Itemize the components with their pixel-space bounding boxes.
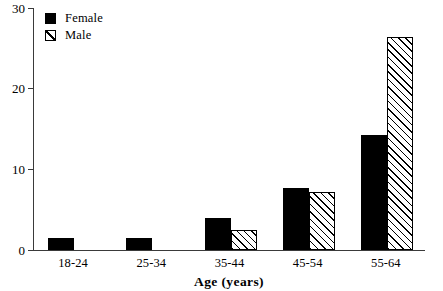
y-axis-label-30: 30 bbox=[0, 2, 25, 15]
x-axis-title: Age (years) bbox=[33, 274, 425, 290]
bar-female-18-24 bbox=[48, 238, 74, 250]
y-axis-label-0: 0 bbox=[0, 244, 25, 257]
bar-female-35-44 bbox=[205, 218, 231, 250]
bar-male-55-64 bbox=[387, 37, 413, 250]
bar-male-45-54 bbox=[309, 192, 335, 250]
y-tick-20 bbox=[28, 88, 33, 89]
y-tick-0 bbox=[28, 250, 33, 251]
y-axis-label-20: 20 bbox=[0, 82, 25, 95]
bars-layer bbox=[34, 8, 425, 250]
x-axis-category-0: 18-24 bbox=[33, 256, 113, 270]
y-tick-10 bbox=[28, 169, 33, 170]
x-axis-category-2: 35-44 bbox=[190, 256, 270, 270]
bar-female-25-34 bbox=[126, 238, 152, 250]
x-axis-category-3: 45-54 bbox=[268, 256, 348, 270]
x-axis-line bbox=[33, 250, 425, 251]
y-tick-30 bbox=[28, 8, 33, 9]
x-axis-category-4: 55-64 bbox=[346, 256, 426, 270]
bar-chart: Female Male 30 20 10 0 18-24 25-34 35-44… bbox=[0, 0, 443, 291]
bar-female-55-64 bbox=[361, 135, 387, 250]
x-axis-category-1: 25-34 bbox=[111, 256, 191, 270]
bar-male-35-44 bbox=[231, 230, 257, 250]
y-axis-label-10: 10 bbox=[0, 163, 25, 176]
bar-female-45-54 bbox=[283, 188, 309, 250]
